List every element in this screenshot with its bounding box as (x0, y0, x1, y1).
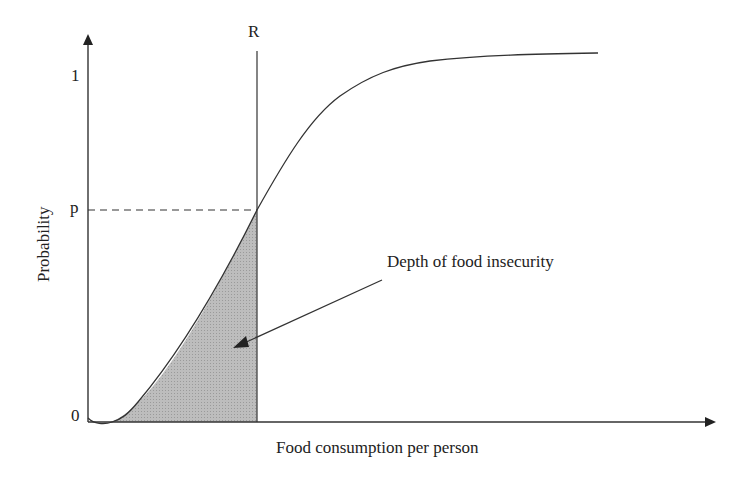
annotation-arrow-line (242, 280, 382, 344)
y-axis-title: Probability (34, 206, 54, 282)
chart-canvas (0, 0, 745, 481)
y-tick-one: 1 (71, 66, 80, 86)
x-axis-arrow-icon (705, 417, 716, 427)
y-axis-arrow-icon (83, 34, 93, 45)
annotation-label: Depth of food insecurity (387, 252, 554, 272)
y-tick-zero: 0 (71, 406, 80, 426)
depth-shaded-area (100, 210, 257, 423)
y-tick-p: p (70, 198, 79, 218)
probability-curve (88, 53, 598, 424)
r-marker-label: R (248, 22, 259, 42)
x-axis-title: Food consumption per person (276, 438, 479, 458)
